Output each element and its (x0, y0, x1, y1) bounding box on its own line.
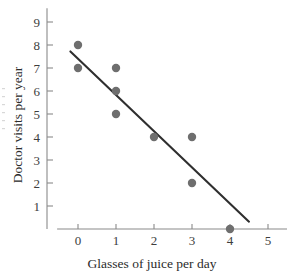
y-tick-label: 5 (34, 107, 41, 122)
plot-canvas: 012345 123456789 Glasses of juice per da… (0, 0, 306, 277)
data-point (188, 179, 196, 187)
x-axis-label: Glasses of juice per day (88, 256, 217, 271)
data-point (74, 64, 82, 72)
x-tick-label: 0 (75, 233, 82, 248)
data-point (112, 64, 120, 72)
y-tick-label: 1 (34, 199, 41, 214)
y-axis-label: Doctor visits per year (10, 66, 25, 183)
data-points (74, 41, 234, 233)
scatter-plot-figure: 012345 123456789 Glasses of juice per da… (0, 0, 306, 277)
data-point (150, 133, 158, 141)
x-axis-ticks: 012345 (75, 224, 272, 248)
data-point (188, 133, 196, 141)
axes (47, 8, 287, 229)
y-tick-label: 6 (34, 84, 41, 99)
y-axis-ticks: 123456789 (34, 15, 54, 214)
x-tick-label: 5 (265, 233, 272, 248)
y-tick-label: 7 (34, 61, 41, 76)
y-tick-label: 3 (34, 153, 41, 168)
x-tick-label: 4 (227, 233, 234, 248)
y-tick-label: 4 (34, 130, 41, 145)
regression-line (70, 51, 249, 221)
x-tick-label: 2 (151, 233, 158, 248)
x-tick-label: 1 (113, 233, 120, 248)
y-tick-label: 8 (34, 38, 41, 53)
y-tick-label: 2 (34, 176, 41, 191)
data-point (74, 41, 82, 49)
data-point (112, 110, 120, 118)
y-tick-label: 9 (34, 15, 41, 30)
data-point (112, 87, 120, 95)
trend-line (70, 51, 249, 221)
data-point (226, 225, 234, 233)
scan-artifact-left (2, 88, 5, 129)
x-tick-label: 3 (189, 233, 196, 248)
